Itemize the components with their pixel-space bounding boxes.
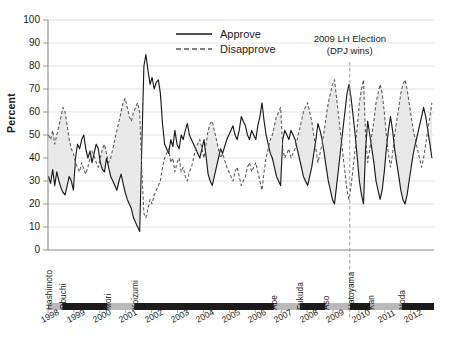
- gap-band: [49, 107, 74, 194]
- y-tick-label: 90: [14, 37, 40, 48]
- pm-label: Abe: [270, 295, 279, 310]
- y-tick-label: 30: [14, 175, 40, 186]
- y-tick-label: 10: [14, 221, 40, 232]
- legend-label-disapprove: Disapprove: [220, 43, 276, 55]
- gap-band: [297, 103, 314, 186]
- pm-label: Hatoyama: [347, 272, 356, 310]
- election-annotation-line2: (DPJ wins): [327, 45, 373, 56]
- pm-label: Fukuda: [296, 282, 305, 310]
- pm-label: Kan: [367, 295, 376, 310]
- gap-band: [372, 84, 387, 199]
- y-tick-label: 0: [14, 244, 40, 255]
- y-tick-label: 80: [14, 60, 40, 71]
- gap-band: [324, 80, 341, 204]
- legend-label-approve: Approve: [220, 28, 261, 40]
- pm-segment: [62, 303, 107, 310]
- y-tick-label: 50: [14, 129, 40, 140]
- y-tick-label: 70: [14, 83, 40, 94]
- pm-label: Hashimoto: [45, 270, 54, 310]
- y-tick-label: 100: [14, 14, 40, 25]
- approval-rating-chart: Percent 2009 LH Election(DPJ wins)Approv…: [0, 0, 452, 348]
- election-annotation-line1: 2009 LH Election: [314, 33, 386, 44]
- pm-label: Aso: [322, 296, 331, 310]
- y-tick-label: 60: [14, 106, 40, 117]
- y-tick-label: 20: [14, 198, 40, 209]
- pm-label: Koizumi: [131, 280, 140, 310]
- gap-band: [206, 121, 218, 185]
- approval-gap-shading: [49, 80, 432, 232]
- gap-band: [100, 98, 139, 231]
- y-tick-label: 40: [14, 152, 40, 163]
- pm-label: Obuchi: [59, 283, 68, 310]
- gap-band: [395, 80, 416, 204]
- pm-label: Noda: [398, 290, 407, 310]
